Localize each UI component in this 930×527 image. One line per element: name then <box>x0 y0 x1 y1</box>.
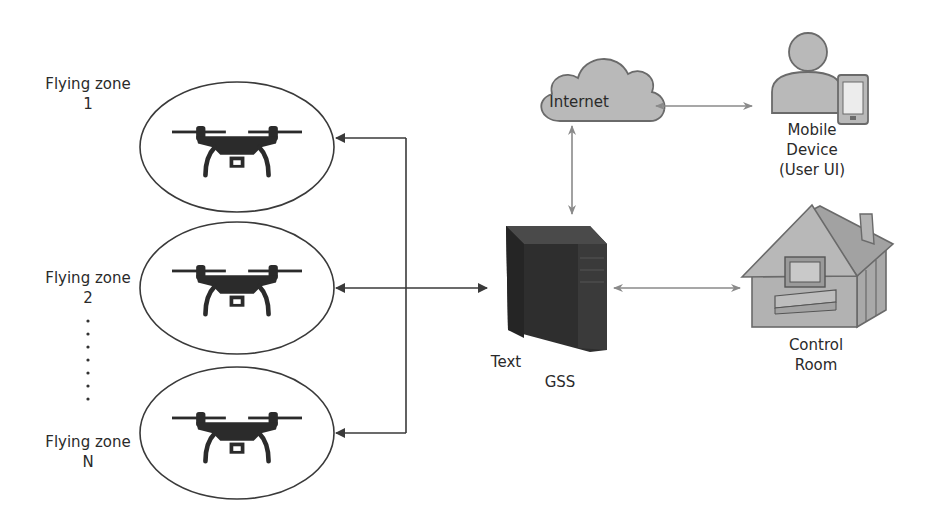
mobile-line-2: Device <box>770 140 854 160</box>
zone-n-index: N <box>28 452 148 472</box>
mobile-line-1: Mobile <box>770 120 854 140</box>
system-architecture-diagram: Flying zone 1 Flying zone 2 Flying zone … <box>0 0 930 527</box>
mobile-line-3: (User UI) <box>770 160 854 180</box>
mobile-user-icon <box>772 33 868 124</box>
server-icon <box>506 226 607 352</box>
zone-1-label: Flying zone 1 <box>28 74 148 114</box>
house-icon <box>742 205 893 327</box>
control-line-2: Room <box>778 355 854 375</box>
zone-2-ellipse <box>140 222 334 354</box>
zone-1-name: Flying zone <box>28 74 148 94</box>
zone-1-index: 1 <box>28 94 148 114</box>
gss-text-label: Text <box>486 352 526 372</box>
zone-2-label: Flying zone 2 <box>28 268 148 308</box>
ellipsis-dots <box>86 319 89 400</box>
zone-n-name: Flying zone <box>28 432 148 452</box>
zone-n-ellipse <box>140 367 334 499</box>
control-line-1: Control <box>778 335 854 355</box>
zone-1-ellipse <box>140 82 334 212</box>
zone-2-index: 2 <box>28 288 148 308</box>
zone-2-name: Flying zone <box>28 268 148 288</box>
zone-n-label: Flying zone N <box>28 432 148 472</box>
control-room-label: Control Room <box>778 335 854 375</box>
gss-label: GSS <box>540 372 580 392</box>
zone-bus-connector <box>336 138 487 433</box>
mobile-device-label: Mobile Device (User UI) <box>770 120 854 180</box>
internet-label: Internet <box>544 92 614 112</box>
